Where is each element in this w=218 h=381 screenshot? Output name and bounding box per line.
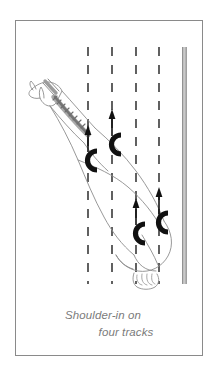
horse-noseband xyxy=(43,79,59,95)
dressage-diagram xyxy=(16,21,202,355)
hoofprint-right-fore xyxy=(109,109,121,154)
arrow-head-left-hind xyxy=(133,198,140,208)
hoofprint-left-fore xyxy=(85,125,97,170)
horse-outline xyxy=(29,79,172,289)
horse-tail xyxy=(133,273,159,289)
figure-page: Shoulder-in on four tracks xyxy=(0,0,218,381)
caption-line-2: four tracks xyxy=(16,324,202,341)
figure-frame: Shoulder-in on four tracks xyxy=(15,20,203,356)
arrow-head-right-fore xyxy=(109,109,116,119)
horse-hind-leg-left xyxy=(116,255,133,269)
hoofprint-right-hind xyxy=(156,187,168,232)
horse-ear-right xyxy=(39,87,44,98)
horse-hind-leg-right xyxy=(142,235,158,265)
figure-caption: Shoulder-in on four tracks xyxy=(16,307,202,341)
horse-body-left xyxy=(50,106,134,255)
horse-croup xyxy=(134,255,156,271)
track-lines xyxy=(88,47,159,284)
diagram-canvas xyxy=(16,21,202,355)
hoofprints xyxy=(85,109,168,243)
horse-body-right xyxy=(95,128,164,221)
arrow-head-right-hind xyxy=(156,187,163,197)
caption-line-1: Shoulder-in on xyxy=(16,307,202,324)
arena-wall xyxy=(182,47,187,284)
